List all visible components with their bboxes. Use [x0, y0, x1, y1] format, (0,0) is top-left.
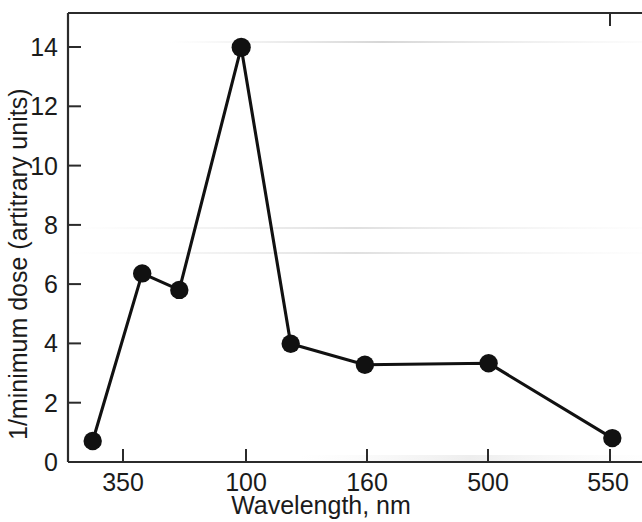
scan-artifact-lines	[68, 41, 642, 461]
x-axis-title: Wavelength, nm	[0, 492, 642, 518]
data-point	[479, 354, 497, 372]
y-axis-ticks	[68, 47, 81, 462]
data-point	[356, 356, 374, 374]
x-axis-ticks	[123, 13, 610, 462]
data-point	[133, 264, 151, 282]
data-point	[232, 38, 251, 57]
y-tick-label-0: 0	[10, 450, 58, 475]
data-point	[84, 432, 102, 450]
data-point-markers	[84, 38, 622, 450]
line-chart-plot	[0, 0, 642, 522]
data-point	[282, 335, 300, 353]
plot-frame	[68, 13, 642, 462]
chart-figure: 14 12 10 8 6 4 2 0 350 100 160 500 550 W…	[0, 0, 642, 522]
data-line-series-1	[93, 47, 613, 441]
y-axis-title: 1/minimum dose (artitrary units)	[6, 89, 31, 440]
data-point	[603, 429, 621, 447]
y-tick-label-14: 14	[10, 35, 58, 60]
data-point	[170, 281, 188, 299]
